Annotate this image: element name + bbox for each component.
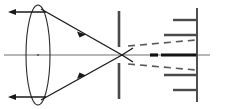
optics-figure: نور bbox=[0, 0, 235, 109]
incoming-ray-top-arrow-icon bbox=[8, 9, 16, 15]
focus-stub-lower bbox=[122, 55, 133, 62]
converging-ray-bottom bbox=[41, 55, 122, 100]
converging-ray-top bbox=[41, 9, 122, 55]
diverging-beam-upper bbox=[128, 40, 196, 46]
incoming-ray-bottom-arrow-icon bbox=[8, 94, 16, 100]
diverging-beam-lower bbox=[128, 64, 196, 70]
side-label: نور bbox=[233, 16, 235, 26]
focus-stub-upper bbox=[122, 48, 133, 55]
lens-center-dot bbox=[37, 54, 39, 56]
optics-diagram-canvas bbox=[0, 0, 235, 109]
